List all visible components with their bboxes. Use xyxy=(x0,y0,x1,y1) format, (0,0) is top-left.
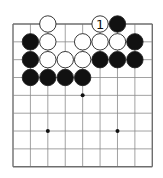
black-stone xyxy=(109,16,125,32)
white-stone xyxy=(57,51,73,67)
stone-disc xyxy=(22,34,38,50)
white-stone xyxy=(74,34,90,50)
black-stone xyxy=(109,51,125,67)
stone-disc xyxy=(40,69,56,85)
white-stone: 1 xyxy=(92,16,108,32)
black-stone xyxy=(22,34,38,50)
stone-disc xyxy=(74,69,90,85)
stone-disc xyxy=(57,51,73,67)
stone-disc xyxy=(127,51,143,67)
stone-disc xyxy=(92,51,108,67)
stone-disc xyxy=(57,69,73,85)
white-stone xyxy=(92,34,108,50)
white-stone xyxy=(40,34,56,50)
stone-disc xyxy=(74,34,90,50)
white-stone xyxy=(74,51,90,67)
star-point xyxy=(81,93,85,97)
stone-disc xyxy=(109,34,125,50)
white-stone xyxy=(40,16,56,32)
star-point xyxy=(46,129,50,133)
black-stone xyxy=(57,69,73,85)
black-stone xyxy=(92,51,108,67)
black-stone xyxy=(22,51,38,67)
stone-disc xyxy=(109,16,125,32)
black-stone xyxy=(22,69,38,85)
black-stone xyxy=(40,69,56,85)
stone-disc xyxy=(40,16,56,32)
black-stone xyxy=(74,69,90,85)
star-point xyxy=(115,129,119,133)
stone-disc xyxy=(109,51,125,67)
white-stone xyxy=(109,34,125,50)
go-board: 1 xyxy=(0,0,163,178)
move-number-label: 1 xyxy=(96,17,104,32)
black-stone xyxy=(127,51,143,67)
stone-disc xyxy=(22,69,38,85)
stone-disc xyxy=(127,34,143,50)
stone-disc xyxy=(92,34,108,50)
black-stone xyxy=(127,34,143,50)
stone-disc xyxy=(74,51,90,67)
stone-disc xyxy=(22,51,38,67)
stone-disc xyxy=(40,51,56,67)
stone-disc xyxy=(40,34,56,50)
white-stone xyxy=(40,51,56,67)
